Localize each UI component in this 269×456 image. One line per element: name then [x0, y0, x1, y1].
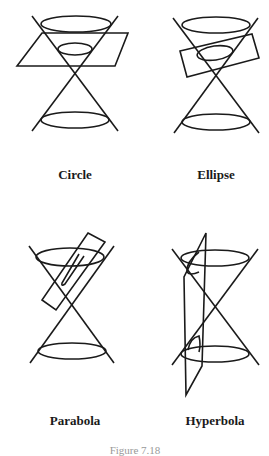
cutting-plane: [17, 33, 128, 66]
circle-section: [58, 43, 92, 55]
cone-bottom-rim: [38, 343, 106, 359]
cone-bottom-rim: [41, 112, 109, 128]
circle-diagram: [17, 16, 128, 131]
cone-top-rim: [41, 16, 111, 32]
label-ellipse: Ellipse: [197, 167, 235, 183]
label-hyperbola: Hyperbola: [185, 413, 244, 429]
cutting-plane: [184, 233, 206, 395]
label-circle: Circle: [58, 167, 92, 183]
cone-bottom-rim: [182, 114, 250, 130]
hyperbola-lower-branch: [188, 336, 200, 352]
cone-bottom-rim: [181, 346, 249, 362]
cone-top-rim: [182, 17, 250, 33]
label-parabola: Parabola: [50, 413, 101, 429]
parabola-diagram: [29, 233, 114, 363]
hyperbola-diagram: [172, 233, 259, 395]
ellipse-diagram: [173, 17, 259, 133]
figure-caption: Figure 7.18: [110, 444, 161, 456]
parabola-section: [62, 254, 84, 285]
